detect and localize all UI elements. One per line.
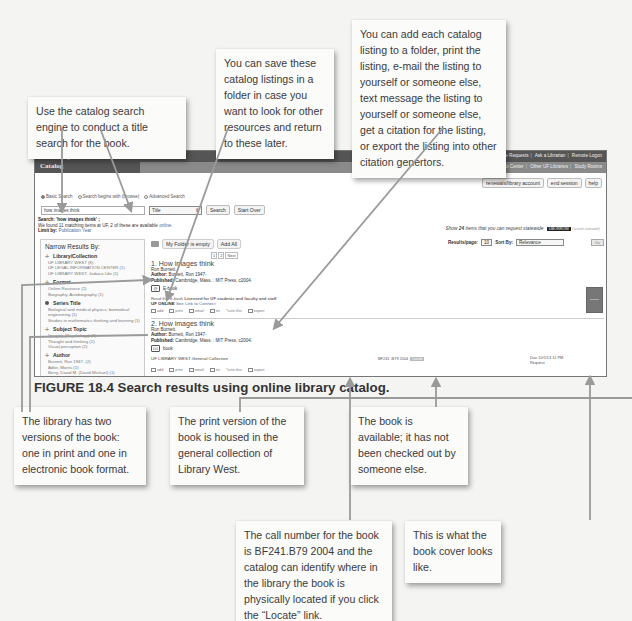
folder-icon xyxy=(151,241,159,247)
pagination: 1 2 Next xyxy=(211,252,238,259)
limit-label: Limit by: xyxy=(38,228,57,233)
collapse-icon[interactable] xyxy=(45,301,49,305)
facet-item[interactable]: Biography, Autobiography (1) xyxy=(45,292,140,297)
request-link[interactable]: Request xyxy=(530,361,563,366)
help-button[interactable]: help xyxy=(585,178,602,188)
search-field-select[interactable]: Title⇕ xyxy=(149,206,202,215)
facet-item[interactable]: Berry, David M. (David Michael) (1) xyxy=(45,370,140,375)
page-1-link[interactable]: 1 xyxy=(211,252,217,259)
expand-icon[interactable]: + xyxy=(45,280,49,285)
next-page-link[interactable]: Next xyxy=(225,252,237,259)
callout-save-folder: You can save these catalog listings in a… xyxy=(216,49,334,159)
action-label: cite this xyxy=(229,309,242,313)
search-statewide-link[interactable]: (search statewide) xyxy=(572,227,600,231)
export-action[interactable]: export xyxy=(248,368,265,372)
start-over-button[interactable]: Start Over xyxy=(234,205,265,215)
link-ask-librarian[interactable]: Ask a Librarian xyxy=(535,153,566,158)
book-icon: 📖 xyxy=(151,345,160,352)
phone-icon xyxy=(210,309,215,313)
sort-label: Sort By: xyxy=(495,240,513,245)
statewide-request[interactable]: Show 24 items that you can request state… xyxy=(445,226,600,231)
search-mode-radios: Basic Search Search begins with (browse)… xyxy=(41,194,185,199)
print-action[interactable]: print xyxy=(169,309,182,313)
result-title-link[interactable]: 1. How images think xyxy=(151,260,604,267)
expand-icon[interactable]: + xyxy=(45,254,49,259)
result-actions: add print email txt ✎cite this export xyxy=(151,308,604,313)
callout-text: The call number for the book is BF241.B7… xyxy=(244,529,379,621)
renewals-button[interactable]: renewals/library account xyxy=(482,178,544,188)
book-cover-thumbnail[interactable] xyxy=(586,287,603,313)
result-author: Burnett, Ron 1947- xyxy=(169,272,207,277)
print-action[interactable]: print xyxy=(169,368,182,372)
figure-caption-text: Search results using online library cata… xyxy=(118,380,390,395)
link-study-rooms[interactable]: Study Rooms xyxy=(574,164,602,169)
radio-icon xyxy=(78,195,82,199)
facet-title[interactable]: Format xyxy=(53,279,71,285)
export-icon xyxy=(248,309,253,313)
end-session-button[interactable]: end session xyxy=(547,178,582,188)
sort-select[interactable]: Relevance xyxy=(516,239,564,246)
sidebar-title: Narrow Results By: xyxy=(45,243,140,250)
locate-button[interactable]: Locate xyxy=(410,357,424,361)
search-input[interactable]: how images think xyxy=(41,206,145,215)
facet-title[interactable]: Series Title xyxy=(53,300,81,306)
text-action[interactable]: txt xyxy=(210,309,220,313)
radio-browse-search[interactable]: Search begins with (browse) xyxy=(78,194,140,199)
export-action[interactable]: export xyxy=(248,309,265,313)
action-label: add xyxy=(157,368,163,372)
expand-icon[interactable]: + xyxy=(45,327,49,332)
link-other-uf-libraries[interactable]: Other UF Libraries xyxy=(530,164,568,169)
select-value: Title xyxy=(152,208,161,213)
facet-title[interactable]: Subject Topic xyxy=(53,326,87,332)
add-all-button[interactable]: Add All xyxy=(217,239,241,249)
call-number-text: BF241 .B79 2004 xyxy=(378,356,408,361)
add-action[interactable]: add xyxy=(151,368,163,372)
result-published: Cambridge, Mass. : MIT Press, c2004. xyxy=(175,338,252,343)
online-link[interactable]: online. xyxy=(159,223,173,228)
page-2-link[interactable]: 2 xyxy=(218,252,224,259)
cite-action[interactable]: ✎cite this xyxy=(226,308,242,313)
call-number: BF241 .B79 2004Locate xyxy=(378,356,424,361)
callout-text: Use the catalog search engine to conduct… xyxy=(36,105,148,149)
my-folder-button[interactable]: My Folder is empty xyxy=(162,239,214,249)
email-action[interactable]: email xyxy=(189,368,204,372)
facet-item[interactable]: Visual perception (2) xyxy=(45,344,140,349)
facet-checkbox-item[interactable]: Biological and medical physics, biomedic… xyxy=(45,307,140,318)
callout-actions: You can add each catalog listing to a fo… xyxy=(352,20,506,178)
cite-action[interactable]: ✎cite this xyxy=(226,367,242,372)
connect-link[interactable]: See Link to Connect xyxy=(176,301,216,306)
go-button[interactable]: Go xyxy=(591,239,604,246)
link-remote-logon[interactable]: Remote Logon xyxy=(572,153,602,158)
result-title-link[interactable]: 2. How images think xyxy=(151,320,604,327)
ebook-icon: @ xyxy=(151,285,160,292)
email-icon xyxy=(189,368,194,372)
result-format: book xyxy=(163,346,173,351)
availability-status: Due 10/1/13 11 PMRequest xyxy=(530,356,563,365)
publication-year-link[interactable]: Publication Year xyxy=(58,228,91,233)
holding-row: UF LIBRARY WEST General Collection BF241… xyxy=(151,356,604,365)
email-action[interactable]: email xyxy=(189,309,204,313)
action-label: export xyxy=(254,309,265,313)
action-label: export xyxy=(254,368,265,372)
results-controls: Results/page: 10 Sort By: Relevance xyxy=(448,239,564,246)
uborrow-badge[interactable]: UBORROW xyxy=(547,227,571,231)
radio-advanced-search[interactable]: Advanced Search xyxy=(144,194,185,199)
facet-title[interactable]: Author xyxy=(53,352,70,358)
action-label: email xyxy=(195,368,204,372)
text-action[interactable]: txt xyxy=(210,368,220,372)
match-count-text: We found 11 matching items at UF, 2 of t… xyxy=(38,223,158,228)
callout-text: This is what the book cover looks like. xyxy=(413,529,493,573)
expand-icon[interactable]: + xyxy=(45,353,49,358)
action-label: print xyxy=(175,368,182,372)
search-button[interactable]: Search xyxy=(206,205,230,215)
add-action[interactable]: add xyxy=(151,309,163,313)
results-main: My Folder is empty Add All Results/page:… xyxy=(151,239,604,249)
results-per-page-select[interactable]: 10 xyxy=(481,239,492,246)
facet-checkbox-item[interactable]: Studies in mathematics thinking and lear… xyxy=(45,318,140,323)
print-icon xyxy=(169,368,174,372)
radio-basic-search[interactable]: Basic Search xyxy=(41,194,73,199)
facet-title[interactable]: Library/Collection xyxy=(53,253,97,259)
facet-series-title: Series Title Biological and medical phys… xyxy=(45,300,140,323)
facet-item[interactable]: UF LIBRARY WEST, Judaica Libr (1) xyxy=(45,271,140,276)
callout-available: The book is available; it has not been c… xyxy=(350,407,468,485)
